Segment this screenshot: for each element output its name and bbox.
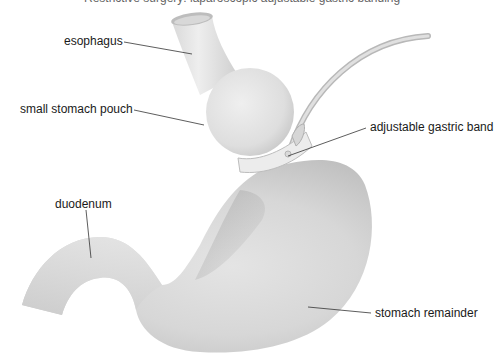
stomach-remainder-shape (22, 160, 372, 352)
label-adjustable-gastric-band: adjustable gastric band (370, 120, 493, 134)
gastric-band-diagram: Restrictive surgery: laparoscopic adjust… (0, 0, 504, 364)
stomach-pouch-shape (206, 68, 294, 156)
pouch-leader (134, 110, 204, 125)
label-small-stomach-pouch: small stomach pouch (20, 102, 133, 116)
label-duodenum: duodenum (55, 197, 112, 211)
label-esophagus: esophagus (64, 34, 123, 48)
label-stomach-remainder: stomach remainder (375, 306, 478, 320)
